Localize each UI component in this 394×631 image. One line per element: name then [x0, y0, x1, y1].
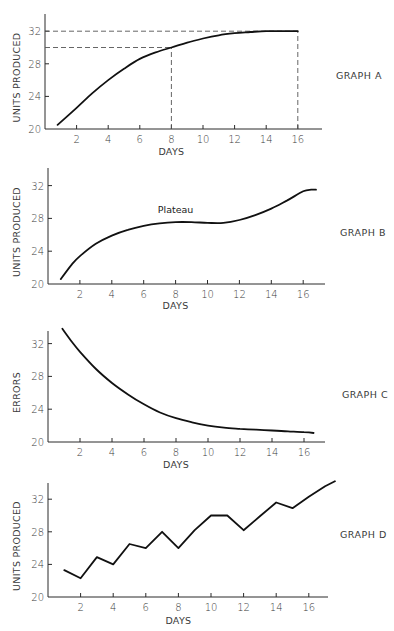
x-tick-label: 4	[109, 447, 115, 458]
x-tick-label: 16	[291, 134, 304, 145]
x-tick-label: 10	[197, 134, 210, 145]
x-tick-label: 10	[205, 602, 218, 613]
y-tick-label: 24	[31, 246, 44, 257]
x-tick-label: 14	[266, 447, 279, 458]
y-tick-label: 32	[31, 181, 44, 192]
y-tick-label: 20	[31, 592, 44, 603]
x-tick-label: 8	[175, 602, 181, 613]
graph-d-title: GRAPH D	[340, 529, 387, 540]
x-tick-label: 8	[168, 134, 174, 145]
x-tick-label: 6	[143, 602, 149, 613]
graph-b-title: GRAPH B	[340, 227, 386, 238]
graph-a: 24681012141620242832GRAPH AUNITS PRODUCE…	[11, 14, 382, 157]
graph-c-axes	[48, 331, 325, 442]
graph-d-data-line	[64, 481, 335, 578]
graph-b-axes	[48, 168, 325, 284]
x-tick-label: 4	[110, 602, 116, 613]
graph-d: 24681012141620242832GRAPH DUNITS PRODUCE…	[11, 481, 387, 626]
y-tick-label: 24	[28, 91, 41, 102]
y-tick-label: 28	[31, 213, 44, 224]
x-tick-label: 16	[302, 602, 315, 613]
graph-b-x-axis-label: DAYS	[163, 300, 189, 311]
x-tick-label: 4	[105, 134, 111, 145]
graph-c-data-line	[62, 329, 313, 433]
graph-c-title: GRAPH C	[342, 389, 388, 400]
x-tick-label: 12	[234, 447, 247, 458]
graph-d-x-axis-label: DAYS	[165, 615, 191, 626]
x-tick-label: 2	[73, 134, 79, 145]
y-tick-label: 32	[31, 339, 44, 350]
x-tick-label: 12	[233, 289, 246, 300]
x-tick-label: 8	[173, 447, 179, 458]
x-tick-label: 2	[77, 447, 83, 458]
graph-c-x-axis-label: DAYS	[163, 459, 189, 470]
y-tick-label: 20	[28, 124, 41, 135]
x-tick-label: 14	[270, 602, 283, 613]
x-tick-label: 6	[141, 447, 147, 458]
x-tick-label: 16	[298, 447, 311, 458]
graph-d-y-axis-label: UNITS PRODUCED	[11, 501, 22, 591]
graph-a-data-line	[58, 31, 298, 125]
x-tick-label: 8	[172, 289, 178, 300]
graph-b-y-axis-label: UNITS PRODUCED	[11, 187, 22, 277]
x-tick-label: 2	[77, 602, 83, 613]
graph-b-data-line	[61, 190, 316, 280]
x-tick-label: 6	[137, 134, 143, 145]
y-tick-label: 20	[31, 279, 44, 290]
y-tick-label: 32	[31, 494, 44, 505]
graph-c: 24681012141620242832GRAPH CERRORSDAYS	[11, 329, 388, 470]
y-tick-label: 28	[28, 59, 41, 70]
x-tick-label: 10	[201, 289, 214, 300]
graph-b-plateau-annotation: Plateau	[158, 204, 194, 215]
graph-a-title: GRAPH A	[336, 70, 382, 81]
learning-curves-figure: 24681012141620242832GRAPH AUNITS PRODUCE…	[0, 0, 394, 631]
graph-c-y-axis-label: ERRORS	[11, 372, 22, 413]
y-tick-label: 28	[31, 371, 44, 382]
y-tick-label: 20	[31, 437, 44, 448]
graph-a-y-axis-label: UNITS PRODUCED	[11, 33, 22, 123]
x-tick-label: 14	[265, 289, 278, 300]
y-tick-label: 24	[31, 404, 44, 415]
x-tick-label: 6	[141, 289, 147, 300]
graph-b: 24681012141620242832GRAPH BUNITS PRODUCE…	[11, 168, 386, 311]
x-tick-label: 12	[237, 602, 250, 613]
x-tick-label: 4	[109, 289, 115, 300]
x-tick-label: 16	[297, 289, 310, 300]
x-tick-label: 14	[260, 134, 273, 145]
y-tick-label: 24	[31, 559, 44, 570]
graph-d-axes	[48, 483, 328, 597]
graph-a-x-axis-label: DAYS	[158, 146, 184, 157]
x-tick-label: 2	[77, 289, 83, 300]
x-tick-label: 10	[202, 447, 215, 458]
x-tick-label: 12	[228, 134, 241, 145]
y-tick-label: 28	[31, 527, 44, 538]
y-tick-label: 32	[28, 26, 41, 37]
